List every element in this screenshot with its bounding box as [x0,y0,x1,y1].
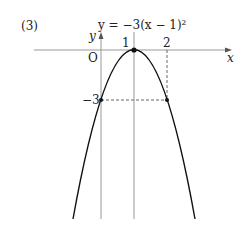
x-axis-label: x [227,51,234,65]
origin-label: O [88,51,98,65]
tick-label-x1: 1 [122,36,130,50]
y-axis-arrow-icon [99,32,104,39]
problem-number: (3) [21,19,38,33]
y-axis-label: y [88,29,96,43]
tick-label-x2: 2 [163,36,171,50]
tick-label-y-neg3: −3 [82,93,100,107]
point-2-neg3 [165,98,169,102]
equation-label: y = −3(x − 1)² [97,18,187,32]
vertex-point [131,47,136,52]
parabola-diagram: (3) y = −3(x − 1)² y x O 1 2 −3 [0,0,242,233]
